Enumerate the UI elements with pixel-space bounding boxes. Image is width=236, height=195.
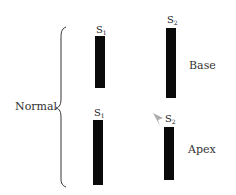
s2-apex-label: S2: [165, 114, 176, 125]
base-label: Base: [189, 60, 216, 71]
s2-apex-bar: [164, 127, 174, 180]
s1-apex-bar: [93, 120, 103, 185]
apex-label: Apex: [188, 144, 216, 155]
s2-base-bar: [166, 28, 176, 98]
brace-icon: [0, 0, 236, 195]
normal-label: Normal: [15, 101, 57, 112]
cursor-icon: [153, 113, 163, 126]
s1-base-bar: [95, 36, 105, 88]
s1-apex-label: S1: [94, 108, 105, 119]
s2-base-label: S2: [167, 15, 178, 26]
s1-base-label: S1: [96, 25, 107, 36]
